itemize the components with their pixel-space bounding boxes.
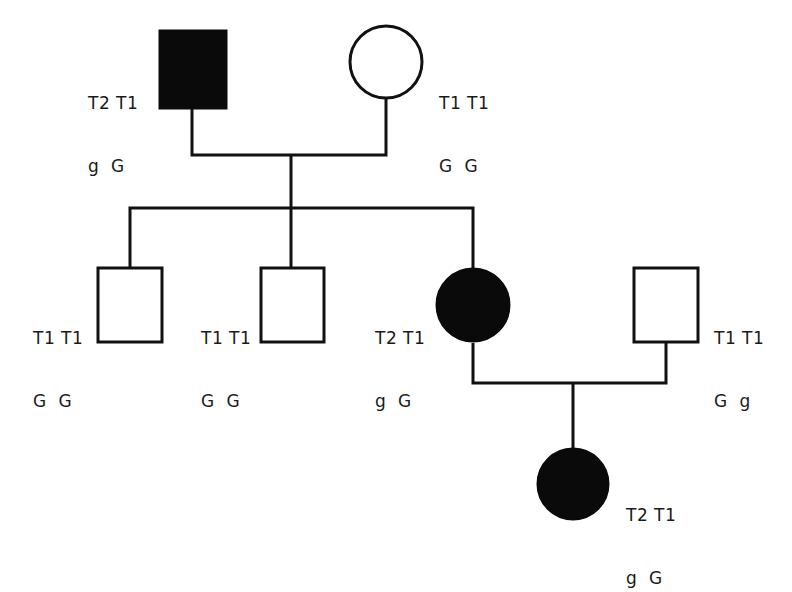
allele-row: g G bbox=[375, 391, 425, 412]
allele-row: g G bbox=[626, 568, 676, 589]
haplotype-row: T2 T1 bbox=[626, 505, 676, 526]
haplotype-row: T1 T1 bbox=[714, 328, 764, 349]
individual-II-1-unaffected-male[interactable] bbox=[98, 268, 162, 342]
haplotype-row: T2 T1 bbox=[375, 328, 425, 349]
genotype-label-I-1: T2 T1 g G bbox=[88, 51, 138, 198]
genotype-label-II-3: T2 T1 g G bbox=[375, 286, 425, 433]
individual-II-2-unaffected-male[interactable] bbox=[261, 268, 324, 342]
haplotype-row: T1 T1 bbox=[201, 328, 251, 349]
allele-row: g G bbox=[88, 156, 138, 177]
individual-I-1-affected-male[interactable] bbox=[160, 31, 226, 108]
haplotype-row: T1 T1 bbox=[33, 328, 83, 349]
allele-row: G g bbox=[714, 391, 764, 412]
individual-II-4-unaffected-male[interactable] bbox=[634, 268, 698, 342]
individual-III-1-affected-female[interactable] bbox=[538, 449, 608, 519]
genotype-label-II-1: T1 T1 G G bbox=[33, 286, 83, 433]
mating-line-gen2 bbox=[473, 342, 666, 448]
allele-row: G G bbox=[201, 391, 251, 412]
haplotype-row: T2 T1 bbox=[88, 93, 138, 114]
genotype-label-I-2: T1 T1 G G bbox=[439, 51, 489, 198]
genotype-label-II-2: T1 T1 G G bbox=[201, 286, 251, 433]
genotype-label-III-1: T2 T1 g G bbox=[626, 463, 676, 592]
allele-row: G G bbox=[33, 391, 83, 412]
sibship-line-gen2 bbox=[130, 155, 473, 268]
allele-row: G G bbox=[439, 156, 489, 177]
genotype-label-II-4: T1 T1 G g bbox=[714, 286, 764, 433]
individual-II-3-affected-female[interactable] bbox=[437, 269, 509, 341]
individual-I-2-unaffected-female[interactable] bbox=[350, 26, 422, 98]
haplotype-row: T1 T1 bbox=[439, 93, 489, 114]
